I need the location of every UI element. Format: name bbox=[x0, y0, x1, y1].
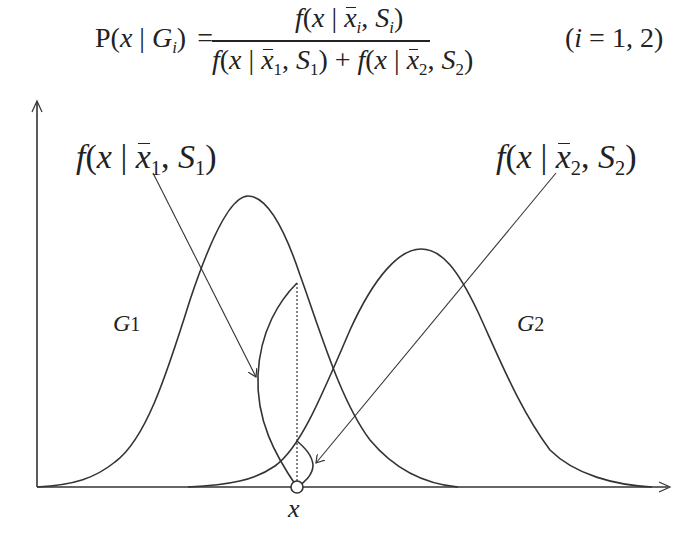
density-diagram bbox=[0, 0, 698, 542]
label-density-g2: f(x | x2, S2) bbox=[496, 138, 637, 180]
label-group-1: G1 bbox=[113, 310, 140, 337]
posterior-curve-g1 bbox=[258, 283, 297, 487]
density-curve-g2 bbox=[188, 249, 652, 487]
density-curve-g1 bbox=[37, 196, 458, 487]
label-density-g1: f(x | x1, S1) bbox=[76, 138, 217, 180]
label-group-2: G2 bbox=[517, 310, 544, 337]
posterior-curve-g2 bbox=[297, 441, 313, 487]
x-position-marker bbox=[291, 481, 303, 493]
leader-arrow-f1 bbox=[153, 173, 256, 377]
label-x-position: x bbox=[288, 494, 300, 524]
